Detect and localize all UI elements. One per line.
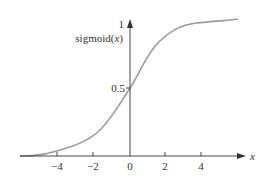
x-tick-label: 2 bbox=[162, 160, 168, 172]
y-axis-arrow-icon bbox=[127, 19, 133, 28]
x-tick-label: 4 bbox=[198, 160, 204, 172]
x-tick-label: −2 bbox=[87, 160, 99, 172]
sigmoid-curve bbox=[20, 19, 238, 156]
y-axis-label: sigmoid(x) bbox=[75, 32, 123, 45]
y-tick-label-half: 0.5 bbox=[111, 82, 125, 94]
x-tick-label: −4 bbox=[51, 160, 63, 172]
x-axis-label: x bbox=[249, 150, 255, 162]
x-ticks bbox=[57, 152, 201, 156]
x-axis-arrow-icon bbox=[237, 153, 246, 159]
y-tick-label-one: 1 bbox=[119, 18, 125, 30]
x-tick-label: 0 bbox=[127, 160, 133, 172]
sigmoid-chart: −4 −2 0 2 4 x 1 0.5 sigmoid(x) bbox=[0, 0, 265, 180]
